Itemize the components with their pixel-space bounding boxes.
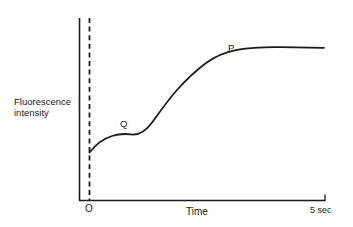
y-axis-label-line-2: intensity bbox=[14, 107, 49, 118]
curve-annotation-q: Q bbox=[120, 119, 127, 130]
fluorescence-induction-chart: Fluorescenceintensity O Time 5 sec Q P bbox=[0, 0, 353, 227]
x-axis-max-tick-label: 5 sec bbox=[310, 205, 332, 215]
origin-tick-label: O bbox=[85, 203, 93, 215]
fluorescence-curve bbox=[90, 47, 325, 152]
y-axis-label: Fluorescenceintensity bbox=[14, 97, 71, 119]
x-axis-label: Time bbox=[186, 206, 208, 218]
curve-annotation-p: P bbox=[228, 43, 234, 54]
y-axis-label-line-1: Fluorescence bbox=[14, 96, 71, 107]
